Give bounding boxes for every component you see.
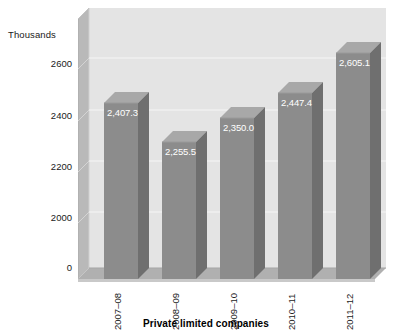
plot-area: 2,407.3 2,255.5 2,350.0 [78,8,386,284]
bar-2007-08: 2,407.3 [104,8,138,279]
bar-value-label: 2,407.3 [107,107,138,118]
bar-2010-11: 2,447.4 [278,8,312,279]
bar-value-label: 2,255.5 [165,146,196,157]
y-axis: 2600 2400 2200 2000 0 [10,0,72,335]
bar-2011-12: 2,605.1 [336,8,370,279]
bar-value-label: 2,447.4 [281,97,312,108]
x-axis-title: Private limited companies [0,318,412,329]
y-tick-0: 0 [10,262,72,273]
bar-value-label: 2,605.1 [339,57,370,68]
y-tick-2600: 2600 [10,58,72,69]
bar-2008-09: 2,255.5 [162,8,196,279]
bar-chart: Thousands [0,0,412,335]
y-tick-2200: 2200 [10,161,72,172]
bar-2009-10: 2,350.0 [220,8,254,279]
y-tick-2000: 2000 [10,212,72,223]
y-tick-2400: 2400 [10,110,72,121]
bar-value-label: 2,350.0 [223,122,254,133]
